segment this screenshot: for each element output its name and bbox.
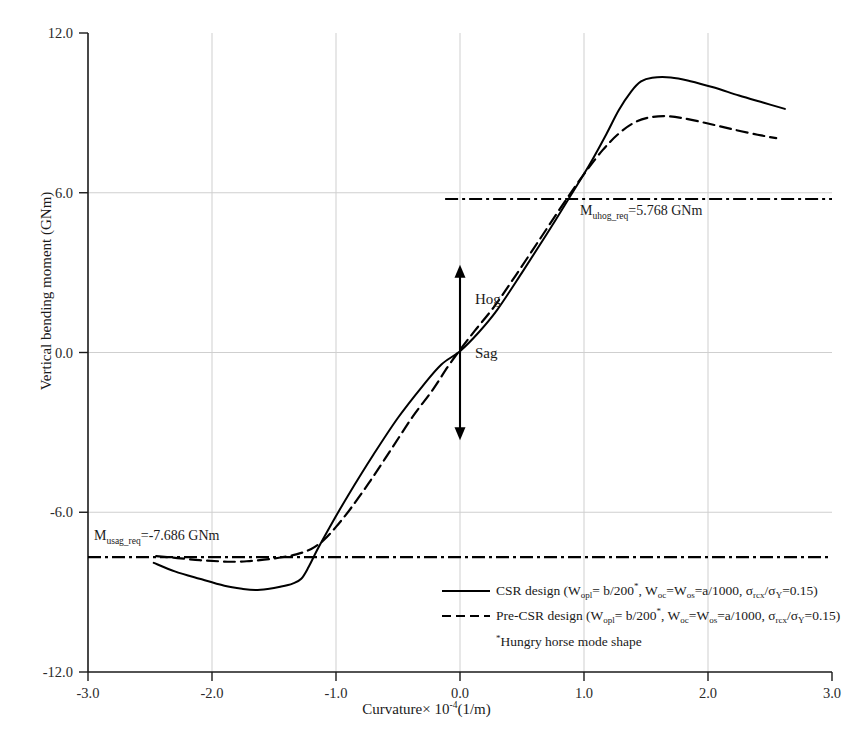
hog-requirement-label: Muhog_req=5.768 GNm — [580, 203, 702, 221]
legend-pre-w3-sub: os — [709, 615, 717, 625]
legend-item-csr: CSR design (Wopl= b/200*, Woc=Wos=a/1000… — [440, 580, 840, 601]
series-solid — [154, 77, 785, 590]
x-axis-title-text: Curvature× 10-4(1/m) — [362, 701, 490, 717]
legend-pre-prefix: Pre-CSR design ( — [496, 607, 591, 622]
legend-csr-s1: σ — [746, 582, 753, 597]
y-axis-title: Vertical bending moment (GNm) — [37, 141, 55, 441]
legend-csr-prefix: CSR design ( — [496, 582, 568, 597]
legend-csr-seg3: =a/1000, — [695, 582, 746, 597]
legend-pre-s1-sub: rcx — [776, 615, 788, 625]
x-axis-base: 10 — [431, 701, 450, 717]
sag-req-subscript: usag_req — [106, 536, 140, 546]
legend-csr-w1-sub: opl — [581, 590, 593, 600]
x-tick-label: 3.0 — [823, 685, 841, 701]
hog-req-value: =5.768 GNm — [628, 203, 702, 218]
legend-pre-w1: W — [591, 607, 604, 622]
hog-req-subscript: uhog_req — [592, 211, 628, 221]
legend-swatch-dashed — [440, 610, 492, 622]
x-axis-times-icon: × — [422, 701, 430, 717]
x-tick-label: -2.0 — [201, 685, 224, 701]
legend-pre-w3: W — [696, 607, 709, 622]
legend-pre-w2-sub: oc — [680, 615, 689, 625]
data-series — [154, 77, 785, 590]
x-tick-label: 0.0 — [451, 685, 469, 701]
legend-label-csr: CSR design (Wopl= b/200*, Woc=Wos=a/1000… — [496, 581, 818, 600]
x-tick-label: -3.0 — [77, 685, 100, 701]
x-axis-title-main: Curvature — [362, 701, 422, 717]
legend-label-precsr: Pre-CSR design (Wopl= b/200*, Woc=Wos=a/… — [496, 606, 840, 625]
legend-csr-w3: W — [674, 582, 687, 597]
sag-req-value: =-7.686 GNm — [141, 528, 220, 543]
legend-pre-s1: σ — [768, 607, 775, 622]
legend-item-precsr: Pre-CSR design (Wopl= b/200*, Woc=Wos=a/… — [440, 605, 840, 626]
legend-pre-tail: =0.15) — [805, 607, 841, 622]
y-tick-label: 12.0 — [48, 25, 73, 41]
sag-requirement-label: Musag_req=-7.686 GNm — [94, 528, 219, 546]
legend-csr-seg1: = b/200 — [592, 582, 634, 597]
legend-csr-eq1: = — [666, 582, 674, 597]
chart-container: -3.0-2.0-1.00.01.02.03.012.06.00.0-6.0-1… — [0, 0, 853, 733]
y-tick-label: -6.0 — [50, 504, 73, 520]
legend-footnote-text: Hungry horse mode shape — [501, 634, 642, 649]
hog-req-symbol: M — [580, 203, 592, 218]
legend-pre-w2: W — [668, 607, 681, 622]
series-dashed — [156, 116, 776, 562]
legend: CSR design (Wopl= b/200*, Woc=Wos=a/1000… — [440, 580, 840, 652]
legend-swatch-solid — [440, 585, 492, 597]
y-tick-label: 0.0 — [55, 345, 73, 361]
sag-label: Sag — [475, 345, 498, 362]
y-tick-label: 6.0 — [55, 185, 73, 201]
x-tick-label: 2.0 — [699, 685, 717, 701]
y-tick-label: -12.0 — [43, 664, 73, 680]
x-axis-unit: (1/m) — [457, 701, 490, 717]
x-tick-label: -1.0 — [325, 685, 348, 701]
legend-csr-w2: W — [645, 582, 658, 597]
legend-csr-w3-sub: os — [687, 590, 695, 600]
legend-pre-w1-sub: opl — [603, 615, 615, 625]
x-axis-title: Curvature× 10-4(1/m) — [0, 700, 853, 718]
hog-label: Hog — [475, 291, 501, 308]
y-axis-title-text: Vertical bending moment (GNm) — [38, 192, 54, 391]
legend-csr-w1: W — [568, 582, 581, 597]
legend-csr-s1-sub: rcx — [753, 590, 765, 600]
legend-csr-tail: =0.15) — [782, 582, 818, 597]
sag-req-symbol: M — [94, 528, 106, 543]
x-tick-label: 1.0 — [575, 685, 593, 701]
legend-footnote: *Hungry horse mode shape — [440, 632, 840, 652]
legend-pre-seg1: = b/200 — [615, 607, 657, 622]
legend-pre-seg3: =a/1000, — [717, 607, 768, 622]
legend-csr-s2: σ — [768, 582, 775, 597]
